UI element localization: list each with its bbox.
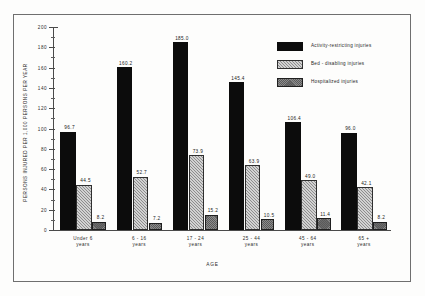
legend-swatch <box>277 42 303 51</box>
bar <box>205 215 219 230</box>
bar-value-label: 96.7 <box>64 125 75 130</box>
legend-label: Activity-restricting injuries <box>311 43 372 48</box>
bar <box>245 165 261 230</box>
y-tick-label: 60 <box>41 167 47 172</box>
bar <box>133 177 149 230</box>
bar-group: 106.449.011.4 <box>285 27 331 230</box>
x-category-line: years <box>243 242 260 248</box>
bar-value-label: 96.0 <box>345 126 356 131</box>
y-tick-minor <box>51 57 55 58</box>
y-tick-major <box>49 68 55 69</box>
x-category-line: years <box>299 242 316 248</box>
y-axis-title: PERSONS INJURED PER 1,000 PERSONS PER YE… <box>23 38 28 228</box>
x-axis-title: AGE <box>0 262 425 267</box>
bar-group: 96.042.18.2 <box>341 27 387 230</box>
legend-swatch <box>277 78 303 87</box>
bar <box>261 219 275 230</box>
y-tick-minor <box>51 118 55 119</box>
bar-value-label: 160.2 <box>119 61 132 66</box>
y-tick-label: 140 <box>38 85 47 90</box>
y-tick-minor <box>51 139 55 140</box>
x-category-label: 45 - 64years <box>299 236 316 248</box>
y-tick-major <box>49 230 55 231</box>
bar-value-label: 73.9 <box>193 149 204 154</box>
x-category-label: 65 +years <box>357 236 370 248</box>
bar <box>373 222 387 230</box>
y-tick-minor <box>51 200 55 201</box>
bar <box>92 222 106 230</box>
bar <box>317 218 331 230</box>
legend-swatch <box>277 60 303 69</box>
bar-value-label: 42.1 <box>361 181 372 186</box>
bar-value-label: 44.5 <box>80 178 91 183</box>
bar-value-label: 8.2 <box>97 215 105 220</box>
x-category-line: years <box>73 242 93 248</box>
bar-value-label: 185.0 <box>175 36 188 41</box>
y-tick-label: 200 <box>38 25 47 30</box>
bar <box>117 67 133 230</box>
x-category-line: years <box>132 242 146 248</box>
y-tick-major <box>49 169 55 170</box>
bar-group: 185.073.915.2 <box>173 27 219 230</box>
y-tick-label: 20 <box>41 207 47 212</box>
y-tick-minor <box>51 37 55 38</box>
bar-value-label: 15.2 <box>208 208 219 213</box>
y-tick-minor <box>51 220 55 221</box>
bar-value-label: 11.4 <box>320 212 330 217</box>
y-tick-minor <box>51 78 55 79</box>
y-tick-label: 40 <box>41 187 47 192</box>
y-tick-label: 120 <box>38 106 47 111</box>
bar-value-label: 10.5 <box>264 213 275 218</box>
figure: PERSONS INJURED PER 1,000 PERSONS PER YE… <box>0 0 425 296</box>
y-tick-label: 80 <box>41 146 47 151</box>
y-tick-label: 100 <box>38 126 47 131</box>
bar-value-label: 63.9 <box>249 159 260 164</box>
plot-area: 020406080100120140160180200 96.744.58.21… <box>54 27 391 230</box>
y-tick-major <box>49 108 55 109</box>
bar <box>285 122 301 230</box>
y-tick-minor <box>51 179 55 180</box>
legend-label: Hospitalized injuries <box>311 79 358 84</box>
x-category-label: Under 6years <box>73 236 93 248</box>
x-category-line: years <box>357 242 370 248</box>
bar <box>301 180 317 230</box>
bar-group: 160.252.77.2 <box>117 27 163 230</box>
y-tick-label: 0 <box>44 228 47 233</box>
y-tick-major <box>49 149 55 150</box>
bar-group: 145.463.910.5 <box>229 27 275 230</box>
bar <box>76 185 92 230</box>
y-tick-major <box>49 189 55 190</box>
x-axis-line <box>53 230 391 231</box>
bar-value-label: 145.4 <box>231 76 244 81</box>
bar <box>189 155 205 230</box>
y-tick-label: 160 <box>38 65 47 70</box>
bar <box>357 187 373 230</box>
y-tick-label: 180 <box>38 45 47 50</box>
bar-value-label: 8.2 <box>378 215 386 220</box>
bar <box>173 42 189 230</box>
x-category-label: 17 - 24years <box>187 236 204 248</box>
y-tick-major <box>49 47 55 48</box>
x-category-label: 25 - 44years <box>243 236 260 248</box>
bar-value-label: 52.7 <box>136 170 147 175</box>
y-tick-major <box>49 210 55 211</box>
bar-value-label: 7.2 <box>153 216 161 221</box>
bar <box>341 133 357 230</box>
bar-value-label: 49.0 <box>305 174 316 179</box>
x-category-label: 6 - 16years <box>132 236 146 248</box>
bar <box>229 82 245 230</box>
y-tick-major <box>49 129 55 130</box>
y-tick-major <box>49 88 55 89</box>
bar <box>149 223 163 230</box>
x-category-line: years <box>187 242 204 248</box>
bar-group: 96.744.58.2 <box>60 27 106 230</box>
bar <box>60 132 76 230</box>
y-tick-major <box>49 27 55 28</box>
y-tick-minor <box>51 159 55 160</box>
y-tick-minor <box>51 98 55 99</box>
bar-value-label: 106.4 <box>288 116 301 121</box>
legend-label: Bed - disabling injuries <box>311 61 364 66</box>
